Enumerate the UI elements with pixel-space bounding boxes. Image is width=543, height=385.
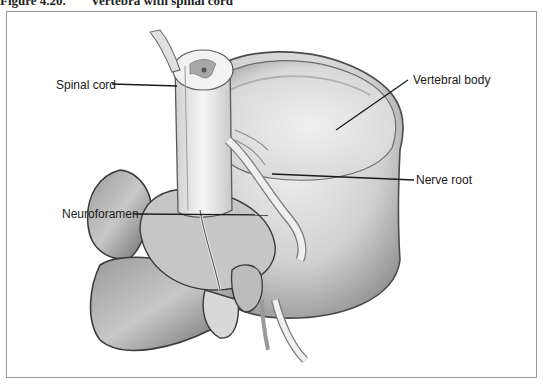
spinal-cord-leader xyxy=(112,84,177,86)
vertebra-illustration xyxy=(0,0,543,385)
label-nerve-root: Nerve root xyxy=(416,173,472,187)
spinal-cord-shape xyxy=(173,50,233,217)
label-vertebral-body: Vertebral body xyxy=(413,73,490,87)
label-neuroforamen: Neuroforamen xyxy=(62,207,139,221)
dura-sleeve-shape xyxy=(150,30,180,72)
label-spinal-cord: Spinal cord xyxy=(56,78,116,92)
